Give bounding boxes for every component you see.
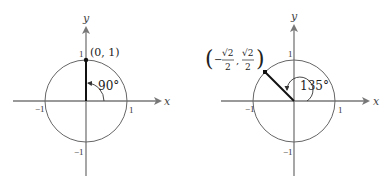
- point-label-comma: ,: [236, 55, 239, 66]
- tick-x-pos: 1: [338, 105, 343, 115]
- point-label-x-denominator: 2: [225, 62, 231, 72]
- tick-y-pos: 1: [79, 49, 84, 59]
- tick-y-neg: −1: [74, 147, 84, 157]
- point-label-close-paren: ): [256, 46, 265, 71]
- tick-x-neg: −1: [35, 104, 45, 114]
- angle-label: 135°: [300, 79, 329, 93]
- point-label-y-denominator: 2: [245, 62, 251, 72]
- y-axis-label: y: [290, 10, 298, 23]
- unit-circle-diagrams: 90° (0, 1) x y 1 −1 1 −1 135° ( − √2 2 ,…: [0, 0, 386, 190]
- point-marker: [84, 58, 88, 62]
- angle-label: 90°: [98, 79, 119, 93]
- figure-right-135-degrees: 135° ( − √2 2 , √2 2 ) x y 1 −1 1 −1: [205, 10, 380, 176]
- x-axis-label: x: [164, 95, 171, 108]
- y-axis-label: y: [82, 12, 90, 25]
- point-label: (0, 1): [90, 46, 120, 59]
- radius-line: [265, 72, 294, 101]
- tick-x-pos: 1: [129, 105, 134, 115]
- point-label-open-paren: (: [205, 46, 214, 71]
- x-axis-label: x: [373, 95, 380, 108]
- tick-y-pos: 1: [288, 49, 293, 59]
- point-label-y-numerator: √2: [242, 48, 253, 58]
- point-label-x-numerator: √2: [222, 48, 233, 58]
- point-label: ( − √2 2 , √2 2 ): [205, 46, 265, 72]
- tick-y-neg: −1: [283, 147, 293, 157]
- figure-left-90-degrees: 90° (0, 1) x y 1 −1 1 −1: [13, 12, 171, 176]
- tick-x-neg: −1: [245, 104, 255, 114]
